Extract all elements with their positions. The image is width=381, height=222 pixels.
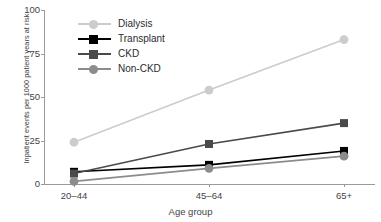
x-tick-label: 65+ bbox=[336, 190, 352, 201]
x-axis-title: Age group bbox=[0, 206, 381, 217]
circle-marker-icon bbox=[205, 86, 214, 95]
legend-item-transplant[interactable]: Transplant bbox=[78, 31, 165, 46]
circle-marker-icon bbox=[340, 35, 349, 44]
legend-swatch-transplant bbox=[78, 33, 111, 45]
legend-item-ckd[interactable]: CKD bbox=[78, 46, 165, 61]
x-tick-label: 45–64 bbox=[196, 190, 222, 201]
x-tick-label: 20–44 bbox=[61, 190, 87, 201]
legend-swatch-non-ckd bbox=[78, 63, 111, 75]
square-marker-icon bbox=[340, 119, 348, 127]
legend-swatch-ckd bbox=[78, 48, 111, 60]
plot-area bbox=[0, 0, 381, 222]
legend-label: CKD bbox=[118, 49, 139, 59]
legend-label: Transplant bbox=[118, 34, 165, 44]
legend-label: Dialysis bbox=[118, 19, 152, 29]
line-chart: Inpatient events per 1000 patient years … bbox=[0, 0, 381, 222]
circle-marker-icon bbox=[89, 65, 98, 74]
legend-label: Non-CKD bbox=[118, 64, 161, 74]
legend-swatch-dialysis bbox=[78, 18, 111, 30]
square-marker-icon bbox=[205, 140, 213, 148]
circle-marker-icon bbox=[205, 164, 214, 173]
circle-marker-icon bbox=[89, 20, 98, 29]
circle-marker-icon bbox=[70, 177, 79, 186]
series-non-ckd bbox=[70, 152, 349, 186]
legend-item-dialysis[interactable]: Dialysis bbox=[78, 16, 165, 31]
square-marker-icon bbox=[70, 170, 78, 178]
square-marker-icon bbox=[89, 50, 98, 59]
chart-legend: Dialysis Transplant CKD Non-CKD bbox=[78, 16, 165, 76]
circle-marker-icon bbox=[70, 138, 79, 147]
circle-marker-icon bbox=[340, 152, 349, 161]
square-marker-icon bbox=[89, 35, 98, 44]
legend-item-non-ckd[interactable]: Non-CKD bbox=[78, 61, 165, 76]
